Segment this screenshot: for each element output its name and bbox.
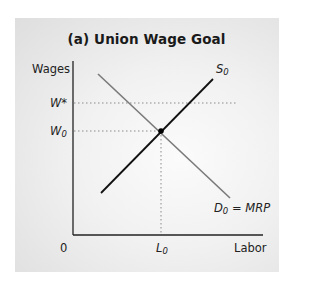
origin-label: 0 [60, 241, 67, 255]
supply-curve [101, 79, 213, 193]
equilibrium-point [158, 128, 164, 134]
demand-curve [98, 74, 230, 198]
w0-label: W0 [50, 124, 67, 139]
y-axis-label: Wages [32, 62, 70, 76]
w-star-label: W* [50, 96, 67, 110]
l0-label: L0 [156, 241, 168, 256]
supply-label: S0 [216, 62, 229, 77]
demand-label: D0 = MRP [214, 201, 270, 216]
x-axis-label: Labor [234, 241, 267, 255]
